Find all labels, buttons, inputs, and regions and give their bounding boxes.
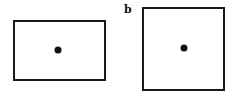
panel-a-center-dot — [55, 47, 62, 54]
panel-b-center-dot — [181, 45, 188, 52]
panel-b-label: b — [124, 4, 132, 15]
